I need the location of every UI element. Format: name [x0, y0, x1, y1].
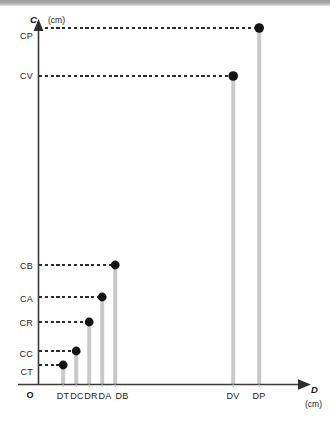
y-tick-label-CA: CA [0, 294, 33, 304]
y-tick-label-CP: CP [0, 31, 33, 41]
bar-series [61, 28, 261, 384]
data-point-DA [98, 293, 107, 302]
guide-lines [39, 28, 257, 365]
x-tick-label-DR: DR [84, 391, 97, 401]
bar-DB [113, 265, 117, 384]
bar-DA [100, 297, 104, 384]
x-axis-unit: (cm) [305, 399, 322, 409]
y-tick-label-CV: CV [0, 71, 33, 81]
y-tick-label-CT: CT [0, 367, 33, 377]
y-tick-label-CR: CR [0, 318, 33, 328]
y-axis-unit: (cm) [48, 15, 65, 25]
x-tick-label-DA: DA [99, 391, 112, 401]
bar-DC [74, 351, 78, 384]
data-point-DB [111, 261, 120, 270]
x-axis-arrow-icon [298, 379, 311, 390]
data-point-DR [85, 318, 94, 327]
x-tick-label-DC: DC [70, 391, 83, 401]
y-tick-label-CC: CC [0, 349, 33, 359]
origin-label: O [26, 390, 33, 400]
x-tick-label-DV: DV [227, 391, 240, 401]
x-tick-label-DP: DP [253, 391, 266, 401]
data-point-DT [59, 361, 68, 370]
y-axis-title: C [30, 14, 37, 25]
x-axis-title: D [311, 384, 318, 395]
chart-figure: C (cm) D (cm) O CP CV CB CA CR CC CT DT … [0, 0, 330, 421]
data-point-DP [254, 23, 264, 33]
data-point-DC [72, 347, 81, 356]
data-point-DV [228, 71, 238, 81]
x-tick-label-DT: DT [57, 391, 69, 401]
x-tick-label-DB: DB [116, 391, 129, 401]
bar-DR [87, 322, 91, 384]
chart-plot-area [0, 0, 330, 421]
bar-DP [257, 28, 261, 384]
bar-DV [231, 76, 235, 384]
y-tick-label-CB: CB [0, 261, 33, 271]
